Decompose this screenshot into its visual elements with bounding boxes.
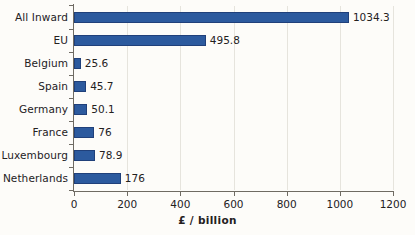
bar-value-label: 176 xyxy=(125,173,145,184)
bar-value-label: 78.9 xyxy=(99,150,122,161)
gridline xyxy=(287,6,288,190)
x-axis-title: £ / billion xyxy=(0,214,415,226)
y-axis-tick xyxy=(69,190,73,191)
category-label: Netherlands xyxy=(0,173,68,184)
bar-value-label: 25.6 xyxy=(85,58,108,69)
bar xyxy=(74,12,349,23)
x-axis-tick-label: 800 xyxy=(267,198,307,210)
y-axis-tick xyxy=(69,121,73,122)
bar-value-label: 50.1 xyxy=(91,104,114,115)
x-axis-tick xyxy=(234,192,235,196)
category-axis: All InwardEUBelgiumSpainGermanyFranceLux… xyxy=(0,6,68,190)
x-axis-tick xyxy=(340,192,341,196)
bar xyxy=(74,104,87,115)
gridline xyxy=(180,6,181,190)
x-axis-tick xyxy=(393,192,394,196)
category-label: Spain xyxy=(0,81,68,92)
x-axis-tick xyxy=(287,192,288,196)
y-axis-line xyxy=(73,4,74,192)
bar xyxy=(74,58,81,69)
x-axis-tick xyxy=(127,192,128,196)
bar xyxy=(74,127,94,138)
x-axis-tick-label: 200 xyxy=(107,198,147,210)
bar-value-label: 495.8 xyxy=(210,35,240,46)
y-axis-tick xyxy=(69,75,73,76)
y-axis-tick xyxy=(69,29,73,30)
category-label: France xyxy=(0,127,68,138)
x-axis-tick-label: 0 xyxy=(54,198,94,210)
bar xyxy=(74,35,206,46)
x-axis-tick-label: 400 xyxy=(160,198,200,210)
x-axis-tick xyxy=(180,192,181,196)
y-axis-tick xyxy=(69,167,73,168)
bar-value-label: 1034.3 xyxy=(353,12,390,23)
y-axis-tick xyxy=(69,144,73,145)
gridline xyxy=(127,6,128,190)
bar xyxy=(74,150,95,161)
category-label: Luxembourg xyxy=(0,150,68,161)
bar xyxy=(74,173,121,184)
bar-chart: All InwardEUBelgiumSpainGermanyFranceLux… xyxy=(0,0,415,235)
x-axis-tick-label: 1000 xyxy=(320,198,360,210)
y-axis-tick xyxy=(69,5,73,6)
category-label: EU xyxy=(0,35,68,46)
y-axis-tick xyxy=(69,52,73,53)
x-axis-tick-label: 600 xyxy=(214,198,254,210)
gridline xyxy=(340,6,341,190)
bar xyxy=(74,81,86,92)
x-axis-tick-label: 1200 xyxy=(373,198,413,210)
category-label: Belgium xyxy=(0,58,68,69)
gridline xyxy=(393,6,394,190)
category-label: All Inward xyxy=(0,12,68,23)
bar-value-label: 76 xyxy=(98,127,111,138)
bar-value-label: 45.7 xyxy=(90,81,113,92)
y-axis-tick xyxy=(69,98,73,99)
x-axis-tick xyxy=(74,192,75,196)
category-label: Germany xyxy=(0,104,68,115)
plot-area: 1034.3495.825.645.750.17678.9176 xyxy=(74,6,393,190)
